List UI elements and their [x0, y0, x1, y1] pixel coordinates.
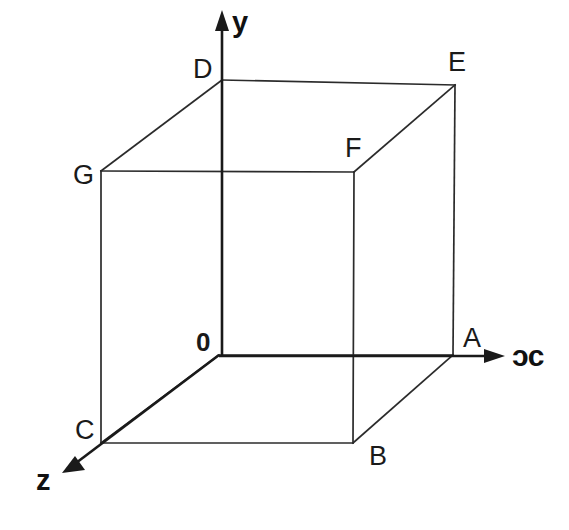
- box-diagram-svg: [0, 0, 569, 530]
- vertex-label-G: G: [73, 162, 94, 189]
- vertex-label-D: D: [193, 56, 213, 83]
- z-axis-label: z: [36, 466, 51, 495]
- vertex-label-B: B: [369, 443, 387, 470]
- edge-A-E: [453, 85, 455, 355]
- vertex-label-F: F: [345, 135, 362, 162]
- y-axis-arrowhead-icon: [215, 10, 229, 31]
- edge-G-F: [101, 171, 354, 172]
- vertex-label-E: E: [448, 49, 466, 76]
- edge-D-G: [101, 80, 222, 171]
- vertex-label-O: 0: [196, 329, 210, 355]
- vertex-label-A: A: [463, 325, 481, 352]
- vertex-label-C: C: [75, 417, 95, 444]
- edge-F-E: [354, 85, 455, 172]
- edge-D-E: [222, 80, 455, 85]
- diagram-canvas: y ᴐc z 0 A B C D E F G: [0, 0, 569, 530]
- box-edges: [101, 80, 455, 443]
- edge-B-F: [353, 172, 354, 443]
- coordinate-axes: [62, 10, 505, 473]
- x-axis-arrowhead-icon: [484, 349, 505, 363]
- z-axis-line: [76, 355, 219, 463]
- y-axis-label: y: [232, 8, 248, 37]
- x-axis-label: ᴐc: [512, 341, 543, 371]
- edge-B-A: [353, 355, 453, 443]
